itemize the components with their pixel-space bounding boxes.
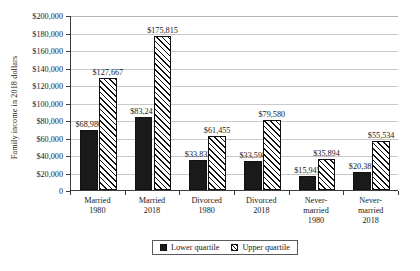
y-tick-label: $120,000 (32, 82, 63, 91)
y-tick-label: $100,000 (32, 99, 63, 108)
x-tick-label-line: 2018 (246, 206, 276, 216)
bar-value-label: $127,667 (92, 68, 123, 77)
x-category-label: Married1980 (84, 196, 110, 216)
x-tick-mark (343, 191, 344, 195)
legend-swatch-icon (160, 244, 167, 251)
bar-upper-quartile (154, 36, 172, 190)
bar-lower-quartile (353, 172, 371, 190)
y-tick-label: $20,000 (36, 169, 63, 178)
bar-lower-quartile (80, 130, 98, 190)
legend-item[interactable]: Lower quartile (160, 243, 219, 252)
x-category-label: Divorced2018 (246, 196, 276, 216)
bar-upper-quartile (99, 78, 117, 190)
y-tick-label: $160,000 (32, 47, 63, 56)
x-tick-mark (125, 191, 126, 195)
x-tick-label-line: Divorced (191, 196, 221, 206)
x-tick-label-line: Married (139, 196, 165, 206)
x-tick-label-line: 1980 (191, 206, 221, 216)
x-tick-label-line: married (303, 206, 328, 216)
y-tick-label: $40,000 (36, 152, 63, 161)
bar-upper-quartile (318, 159, 336, 190)
bar-value-label: $79,580 (259, 110, 286, 119)
legend-swatch-icon (231, 244, 238, 251)
x-category-label: Married2018 (139, 196, 165, 216)
x-tick-label-line: married (358, 206, 383, 216)
bar-value-label: $175,815 (147, 26, 178, 35)
bar-upper-quartile (208, 136, 226, 190)
y-tick-label: $200,000 (32, 12, 63, 21)
x-axis-labels: Married1980Married2018Divorced1980Divorc… (70, 196, 398, 236)
bar-value-label: $61,455 (204, 126, 231, 135)
chart-legend: Lower quartileUpper quartile (152, 240, 298, 255)
x-category-label: Divorced1980 (191, 196, 221, 216)
y-axis-ticks: 0$20,000$40,000$60,000$80,000$100,000$12… (0, 16, 70, 191)
x-tick-label-line: 2018 (358, 216, 383, 226)
y-tick-label: 0 (59, 187, 63, 196)
bar-value-label: $55,534 (368, 131, 395, 140)
chart-figure: Family income in 2018 dollars 0$20,000$4… (0, 0, 420, 271)
y-tick-label: $80,000 (36, 117, 63, 126)
y-tick-label: $140,000 (32, 64, 63, 73)
x-category-label: Never-married1980 (303, 196, 328, 227)
x-tick-label-line: Divorced (246, 196, 276, 206)
bar-upper-quartile (263, 120, 281, 190)
x-category-label: Never-married2018 (358, 196, 383, 227)
x-tick-mark (179, 191, 180, 195)
bar-series-layer: $68,980$127,667$83,241$175,815$33,833$61… (71, 16, 398, 190)
x-tick-label-line: Married (84, 196, 110, 206)
x-tick-mark (70, 191, 71, 195)
legend-item[interactable]: Upper quartile (231, 243, 290, 252)
y-tick-label: $60,000 (36, 134, 63, 143)
bar-lower-quartile (135, 117, 153, 190)
bar-lower-quartile (189, 160, 207, 190)
bar-value-label: $35,894 (313, 149, 340, 158)
plot-area: $68,980$127,667$83,241$175,815$33,833$61… (70, 16, 398, 191)
x-tick-mark (234, 191, 235, 195)
legend-label: Upper quartile (242, 243, 290, 252)
x-tick-label-line: 2018 (139, 206, 165, 216)
bar-lower-quartile (244, 161, 262, 190)
x-tick-label-line: 1980 (303, 216, 328, 226)
x-tick-label-line: Never- (358, 196, 383, 206)
y-tick-label: $180,000 (32, 29, 63, 38)
bar-lower-quartile (299, 176, 317, 190)
legend-label: Lower quartile (171, 243, 219, 252)
x-tick-mark (398, 191, 399, 195)
bar-upper-quartile (372, 141, 390, 190)
x-tick-label-line: 1980 (84, 206, 110, 216)
x-tick-label-line: Never- (303, 196, 328, 206)
x-tick-mark (289, 191, 290, 195)
